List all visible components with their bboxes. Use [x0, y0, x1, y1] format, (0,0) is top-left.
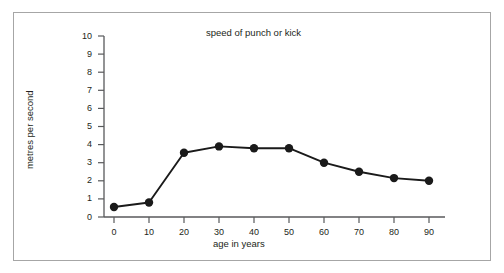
data-point-marker [390, 174, 398, 182]
x-axis-tick-label: 60 [313, 228, 335, 237]
x-axis-tick-label: 90 [418, 228, 440, 237]
data-point-marker [180, 149, 188, 157]
y-axis-label: metres per second [25, 65, 35, 195]
x-axis-tick-label: 0 [103, 228, 125, 237]
chart-title: speed of punch or kick [206, 28, 301, 38]
x-axis-tick-label: 20 [173, 228, 195, 237]
series-line [114, 146, 429, 207]
x-axis-tick-label: 40 [243, 228, 265, 237]
x-axis-label: age in years [213, 239, 265, 249]
y-axis-tick-label: 1 [76, 194, 92, 203]
x-axis-tick-label: 70 [348, 228, 370, 237]
y-axis-tick-label: 5 [76, 122, 92, 131]
y-axis-tick-label: 8 [76, 68, 92, 77]
y-axis-tick-label: 0 [76, 213, 92, 222]
x-axis-tick-label: 10 [138, 228, 160, 237]
x-axis-tick-label: 50 [278, 228, 300, 237]
y-axis-tick-label: 4 [76, 140, 92, 149]
data-point-marker [425, 177, 433, 185]
data-point-marker [285, 144, 293, 152]
data-point-marker [110, 203, 118, 211]
data-point-marker [355, 168, 363, 176]
data-point-marker [320, 159, 328, 167]
chart-page: speed of punch or kick age in years metr… [0, 0, 504, 273]
y-axis-tick-label: 9 [76, 50, 92, 59]
x-axis-tick-label: 30 [208, 228, 230, 237]
data-series-line [114, 146, 429, 207]
x-axis-tick-label: 80 [383, 228, 405, 237]
y-axis-tick-label: 2 [76, 176, 92, 185]
y-axis-tick-label: 6 [76, 104, 92, 113]
y-axis-tick-label: 3 [76, 158, 92, 167]
y-axis-tick-label: 10 [76, 32, 92, 41]
y-axis-tick-label: 7 [76, 86, 92, 95]
data-point-marker [250, 144, 258, 152]
data-point-marker [145, 198, 153, 206]
axes-group [98, 36, 445, 223]
data-point-marker [215, 142, 223, 150]
